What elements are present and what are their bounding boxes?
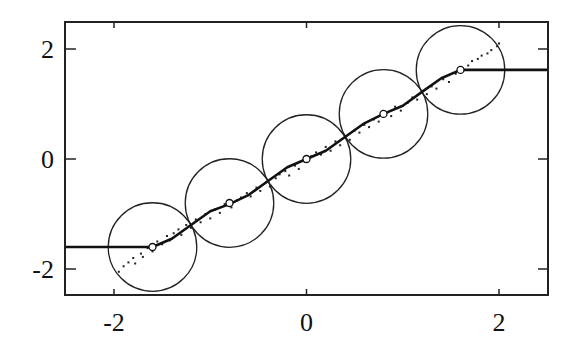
center-marker-2 bbox=[303, 156, 310, 163]
data-point bbox=[471, 60, 473, 62]
data-point bbox=[467, 65, 469, 67]
data-point bbox=[140, 253, 142, 255]
data-point bbox=[269, 186, 271, 188]
data-point bbox=[123, 265, 125, 267]
data-point bbox=[246, 192, 248, 194]
data-point bbox=[378, 121, 380, 123]
y-tick-label: 0 bbox=[41, 145, 54, 174]
data-point bbox=[390, 115, 392, 117]
data-point bbox=[250, 195, 252, 197]
data-point bbox=[496, 45, 498, 47]
data-point bbox=[132, 257, 134, 259]
data-point bbox=[325, 146, 327, 148]
data-point bbox=[349, 139, 351, 141]
data-point bbox=[298, 168, 300, 170]
center-marker-1 bbox=[226, 200, 233, 207]
data-point bbox=[481, 55, 483, 57]
data-point bbox=[498, 43, 500, 45]
data-point bbox=[142, 256, 144, 258]
data-point bbox=[435, 88, 437, 90]
data-point bbox=[209, 217, 211, 219]
data-point bbox=[416, 99, 418, 101]
center-marker-3 bbox=[380, 110, 387, 117]
x-tick-label: -2 bbox=[103, 308, 125, 337]
data-point bbox=[134, 263, 136, 265]
data-point bbox=[156, 241, 158, 243]
data-point bbox=[477, 58, 479, 60]
data-point bbox=[330, 150, 332, 152]
data-point bbox=[177, 228, 179, 230]
data-point bbox=[173, 232, 175, 234]
center-marker-4 bbox=[457, 66, 464, 73]
data-point bbox=[368, 126, 370, 128]
data-point bbox=[200, 221, 202, 223]
scatter-plot: -202 -202 bbox=[0, 0, 577, 346]
data-point bbox=[315, 151, 317, 153]
data-point bbox=[259, 190, 261, 192]
data-point bbox=[490, 49, 492, 51]
data-point bbox=[219, 212, 221, 214]
chart-container: -202 -202 bbox=[0, 0, 577, 346]
data-point bbox=[288, 175, 290, 177]
data-point bbox=[118, 271, 120, 273]
x-tick-label: 0 bbox=[300, 308, 313, 337]
y-tick-label: -2 bbox=[32, 255, 54, 284]
y-tick-label: 2 bbox=[41, 35, 54, 64]
data-point bbox=[400, 110, 402, 112]
data-point bbox=[358, 132, 360, 134]
data-point bbox=[185, 224, 187, 226]
data-point bbox=[180, 234, 182, 236]
center-markers bbox=[149, 66, 464, 250]
data-point bbox=[426, 93, 428, 95]
data-point bbox=[127, 261, 129, 263]
x-tick-label: 2 bbox=[493, 308, 506, 337]
center-marker-0 bbox=[149, 244, 156, 251]
data-point bbox=[339, 144, 341, 146]
data-point bbox=[486, 52, 488, 54]
data-point bbox=[448, 81, 450, 83]
data-point bbox=[166, 235, 168, 237]
